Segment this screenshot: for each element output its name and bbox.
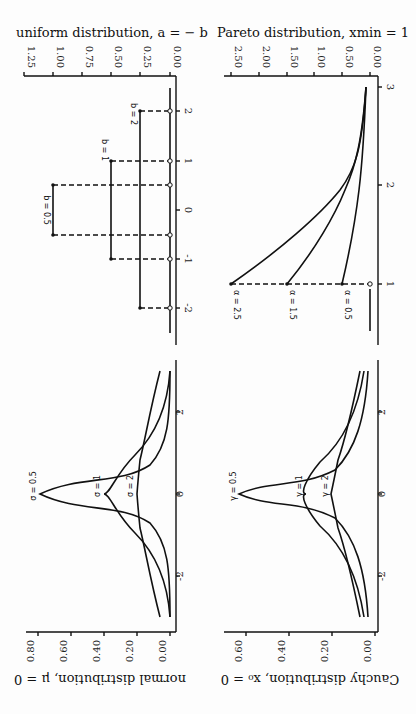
svg-text:2.00: 2.00 (261, 46, 272, 68)
cauchy-title: Cauchy distribution, x₀ = 0 (221, 672, 399, 687)
svg-text:0.25: 0.25 (142, 46, 153, 68)
normal-label-s05: σ = 0.5 (29, 471, 38, 501)
pareto-y-ticks: 2.50 2.00 1.50 1.00 0.50 0.00 (231, 46, 383, 76)
svg-text:0.00: 0.00 (372, 46, 383, 68)
svg-text:0.00: 0.00 (362, 640, 373, 662)
svg-text:0.00: 0.00 (172, 46, 183, 68)
uniform-label-b1: b = 1 (100, 139, 109, 161)
svg-text:3: 3 (385, 84, 396, 90)
pareto-a25-curve (231, 87, 366, 284)
svg-text:-1: -1 (183, 254, 194, 264)
svg-text:1: 1 (183, 158, 194, 164)
svg-text:2.50: 2.50 (233, 46, 244, 68)
svg-text:0.20: 0.20 (319, 640, 330, 662)
svg-text:-2: -2 (376, 571, 387, 581)
pareto-label-a15: α = 1.5 (288, 290, 297, 320)
svg-text:0.40: 0.40 (91, 640, 102, 662)
pareto-title: Pareto distribution, xmin = 1 (217, 25, 409, 40)
svg-text:1.00: 1.00 (316, 46, 327, 68)
cauchy-y-ticks: 0.60 0.40 0.20 0.00 (233, 632, 375, 662)
uniform-label-b05: b = 0.5 (42, 195, 51, 225)
svg-text:2: 2 (376, 409, 387, 415)
pareto-panel: Pareto distribution, xmin = 1 2.50 2.00 … (217, 25, 409, 345)
figure-svg: uniform distribution, a = − b 1.25 1.00 … (0, 0, 416, 714)
cauchy-g1-curve (304, 371, 364, 617)
normal-s2-curve (137, 371, 160, 617)
svg-text:-2: -2 (183, 303, 194, 313)
cauchy-panel: Cauchy distribution, x₀ = 0 0.60 0.40 0.… (221, 360, 399, 687)
cauchy-label-g05: γ = 0.5 (229, 471, 238, 500)
svg-text:0: 0 (183, 207, 194, 213)
normal-label-s1: σ = 1 (93, 475, 102, 497)
svg-text:1: 1 (385, 281, 396, 287)
normal-panel: normal distribution, μ = 0 0.80 0.60 0.4… (14, 360, 186, 687)
uniform-x-ticks: 2 1 0 -1 -2 (176, 108, 194, 313)
svg-text:0.50: 0.50 (344, 46, 355, 68)
pareto-a15-curve (287, 87, 366, 284)
pareto-a05-curve (342, 87, 366, 284)
cauchy-label-g2: γ = 2 (321, 475, 330, 497)
uniform-title: uniform distribution, a = − b (16, 25, 208, 40)
svg-text:0: 0 (174, 491, 185, 497)
svg-text:-2: -2 (174, 571, 185, 581)
distribution-figure: uniform distribution, a = − b 1.25 1.00 … (0, 0, 416, 714)
svg-text:1.25: 1.25 (26, 46, 37, 68)
svg-text:1.50: 1.50 (289, 46, 300, 68)
svg-text:2: 2 (174, 409, 185, 415)
uniform-y-ticks: 1.25 1.00 0.75 0.50 0.25 0.00 (24, 46, 183, 76)
svg-text:2: 2 (183, 108, 194, 114)
svg-text:0.20: 0.20 (124, 640, 135, 662)
normal-title: normal distribution, μ = 0 (14, 672, 186, 687)
cauchy-label-g1: γ = 1 (295, 475, 304, 497)
normal-label-s2: σ = 2 (126, 475, 135, 497)
pareto-label-a25: α = 2.5 (232, 290, 241, 320)
svg-text:0.00: 0.00 (157, 640, 168, 662)
svg-text:0.60: 0.60 (233, 640, 244, 662)
svg-text:1.00: 1.00 (55, 46, 66, 68)
svg-text:0.80: 0.80 (25, 640, 36, 662)
pareto-x-ticks: 3 2 1 (378, 84, 396, 287)
svg-text:0.75: 0.75 (84, 46, 95, 68)
svg-text:2: 2 (385, 182, 396, 188)
uniform-panel: uniform distribution, a = − b 1.25 1.00 … (16, 25, 208, 345)
svg-text:0.60: 0.60 (58, 640, 69, 662)
svg-text:0: 0 (376, 491, 387, 497)
svg-text:0.40: 0.40 (276, 640, 287, 662)
svg-text:0.50: 0.50 (113, 46, 124, 68)
pareto-label-a05: α = 0.5 (343, 290, 352, 320)
normal-y-ticks: 0.80 0.60 0.40 0.20 0.00 (25, 632, 170, 662)
uniform-label-b2: b = 2 (129, 103, 138, 125)
